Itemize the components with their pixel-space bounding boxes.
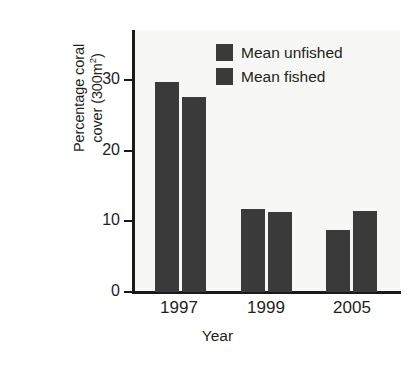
y-axis-title-superscript: 2: [87, 58, 98, 63]
y-tick-label-30: 30: [84, 71, 120, 87]
x-tick-label-1999: 1999: [231, 298, 301, 318]
y-tick-label-10-wrap: 10: [78, 212, 120, 228]
coral-cover-bar-chart: Percentage coral cover (300m2) 30 20 10 …: [0, 0, 417, 370]
legend-item-mean-fished: Mean fished: [216, 65, 343, 87]
legend-label-mean-unfished: Mean unfished: [241, 44, 343, 61]
y-tick-label-10: 10: [84, 212, 120, 228]
y-tick-mark-30: [124, 79, 133, 81]
legend-label-mean-fished: Mean fished: [241, 68, 325, 85]
bar-1997-mean-fished: [182, 97, 206, 292]
x-axis-title: Year: [202, 327, 233, 345]
y-tick-label-0-wrap: 0: [78, 283, 120, 299]
bar-1999-mean-fished: [268, 212, 292, 292]
y-tick-mark-10: [124, 220, 133, 222]
bar-2005-mean-unfished: [326, 230, 350, 292]
y-tick-label-20-wrap: 20: [78, 142, 120, 158]
y-axis-title-line2-close: ): [89, 53, 105, 58]
y-tick-label-20: 20: [84, 142, 120, 158]
bar-1997-mean-unfished: [155, 82, 179, 292]
x-tick-label-1997: 1997: [144, 298, 214, 318]
y-tick-mark-20: [124, 150, 133, 152]
chart-legend: Mean unfished Mean fished: [216, 41, 343, 89]
y-tick-mark-0: [124, 291, 133, 293]
y-axis-title-line2: cover (300m2): [88, 53, 106, 142]
y-tick-label-30-wrap: 30: [78, 71, 120, 87]
legend-swatch-icon-mean-fished: [216, 68, 233, 85]
y-axis-title-line1: Percentage coral: [70, 44, 88, 152]
x-axis-title-wrap: Year: [0, 327, 417, 345]
legend-swatch-icon-mean-unfished: [216, 44, 233, 61]
x-tick-label-2005: 2005: [317, 298, 387, 318]
bar-1999-mean-unfished: [241, 209, 265, 292]
bar-2005-mean-fished: [353, 211, 377, 292]
y-tick-label-0: 0: [84, 283, 120, 299]
legend-item-mean-unfished: Mean unfished: [216, 41, 343, 63]
